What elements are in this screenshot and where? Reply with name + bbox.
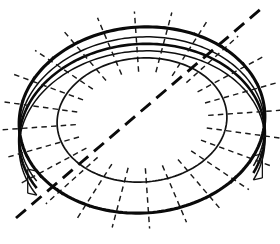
inner-ellipse bbox=[57, 58, 227, 182]
technical-drawing-figure bbox=[0, 0, 280, 244]
rim-band bbox=[19, 37, 265, 195]
drawing-canvas bbox=[0, 0, 280, 244]
